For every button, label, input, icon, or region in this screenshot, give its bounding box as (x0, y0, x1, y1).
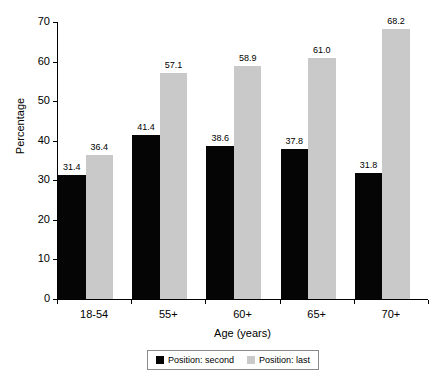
y-tick-label: 50 (38, 94, 50, 107)
y-axis-tick: 30 (0, 180, 57, 181)
legend-swatch-icon (247, 356, 255, 364)
bar (382, 29, 410, 299)
x-category-label: 70+ (354, 307, 428, 321)
plot-area: 31.436.441.457.138.658.937.861.031.868.2 (57, 22, 428, 299)
legend-label: Position: second (168, 355, 234, 366)
x-category-label: 18-54 (57, 307, 131, 321)
chart-legend: Position: secondPosition: last (147, 350, 319, 370)
y-tick-label: 0 (44, 292, 50, 305)
y-axis-tick: 10 (0, 259, 57, 260)
legend-entry: Position: last (247, 355, 310, 366)
x-tick-mark (205, 300, 206, 304)
x-axis-title: Age (years) (57, 327, 428, 339)
y-axis-tick: 0 (0, 299, 57, 300)
bar-value-label: 68.2 (376, 16, 416, 27)
bar (206, 146, 234, 299)
x-tick-mark (428, 300, 429, 304)
y-tick-label: 40 (38, 134, 50, 147)
x-category-label: 60+ (205, 307, 279, 321)
y-tick-label: 60 (38, 55, 50, 68)
y-axis-tick: 70 (0, 22, 57, 23)
x-category-label: 55+ (131, 307, 205, 321)
bar (281, 149, 309, 299)
legend-label: Position: last (259, 355, 310, 366)
y-tick-label: 30 (38, 173, 50, 186)
x-category-label: 65+ (280, 307, 354, 321)
bar (160, 73, 188, 299)
x-tick-mark (354, 300, 355, 304)
bar (58, 175, 86, 299)
bar-chart: Percentage 010203040506070 18-5455+60+65… (0, 0, 439, 380)
x-axis-line (57, 299, 428, 300)
legend-entry: Position: second (156, 355, 234, 366)
bar (132, 135, 160, 299)
y-axis-tick: 60 (0, 62, 57, 63)
y-axis-tick: 50 (0, 101, 57, 102)
legend-swatch-icon (156, 356, 164, 364)
bar (308, 58, 336, 299)
bar (86, 155, 114, 299)
y-axis-title: Percentage (14, 76, 26, 176)
bar-value-label: 58.9 (228, 53, 268, 64)
x-tick-mark (280, 300, 281, 304)
bar (355, 173, 383, 299)
bar-value-label: 36.4 (80, 142, 120, 153)
x-tick-mark (131, 300, 132, 304)
y-axis-tick: 20 (0, 220, 57, 221)
y-tick-label: 20 (38, 213, 50, 226)
y-tick-label: 70 (38, 15, 50, 28)
x-tick-mark (57, 300, 58, 304)
bar (234, 66, 262, 299)
y-axis-tick: 40 (0, 141, 57, 142)
bar-value-label: 61.0 (302, 45, 342, 56)
bar-value-label: 57.1 (154, 60, 194, 71)
y-tick-label: 10 (38, 252, 50, 265)
